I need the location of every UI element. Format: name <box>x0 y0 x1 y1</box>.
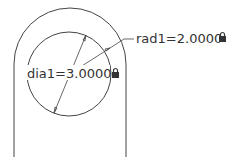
dia1-label[interactable]: dia1=3.0000 <box>27 66 111 81</box>
radius-arrow-icon <box>105 48 110 51</box>
rad1-lock-icon <box>219 33 226 43</box>
dia1-lock-icon <box>112 69 119 79</box>
sketch-drawing: dia1=3.0000 rad1=2.0000 <box>0 0 236 168</box>
outer-profile[interactable] <box>14 8 126 157</box>
sketch-canvas[interactable]: dia1=3.0000 rad1=2.0000 <box>0 0 236 168</box>
diameter-arrow-top-icon <box>83 35 86 41</box>
rad1-label[interactable]: rad1=2.0000 <box>136 31 222 46</box>
diameter-arrow-bottom-icon <box>54 107 57 113</box>
